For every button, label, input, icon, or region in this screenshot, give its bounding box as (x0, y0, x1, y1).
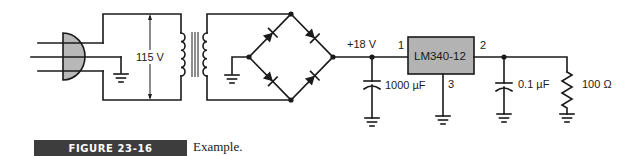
ground-symbol (225, 75, 239, 83)
transformer (181, 32, 207, 77)
figure-caption: Example. (193, 139, 242, 155)
input-capacitor-label: 1000 µF (385, 79, 426, 91)
regulator-pin-3-label: 3 (448, 78, 454, 90)
regulator-part-label: LM340-12 (414, 50, 466, 62)
source-voltage-label: 115 V (136, 51, 165, 63)
ac-plug (31, 33, 121, 80)
figure-number-label: FIGURE 23-16 (68, 143, 152, 154)
rectifier-output-voltage-label: +18 V (347, 38, 377, 50)
power-supply-schematic: 115 V (0, 0, 640, 136)
ground-symbol (114, 74, 128, 82)
output-capacitor-label: 0.1 µF (518, 78, 550, 90)
load-resistor-label: 100 Ω (582, 78, 612, 90)
input-capacitor (364, 57, 380, 126)
load-resistor (560, 72, 574, 122)
figure-number-badge: FIGURE 23-16 (34, 140, 187, 156)
regulator-pin-2-label: 2 (480, 39, 486, 51)
output-capacitor (496, 57, 512, 122)
bridge-rectifier (246, 11, 335, 102)
regulator-pin-1-label: 1 (398, 39, 404, 51)
